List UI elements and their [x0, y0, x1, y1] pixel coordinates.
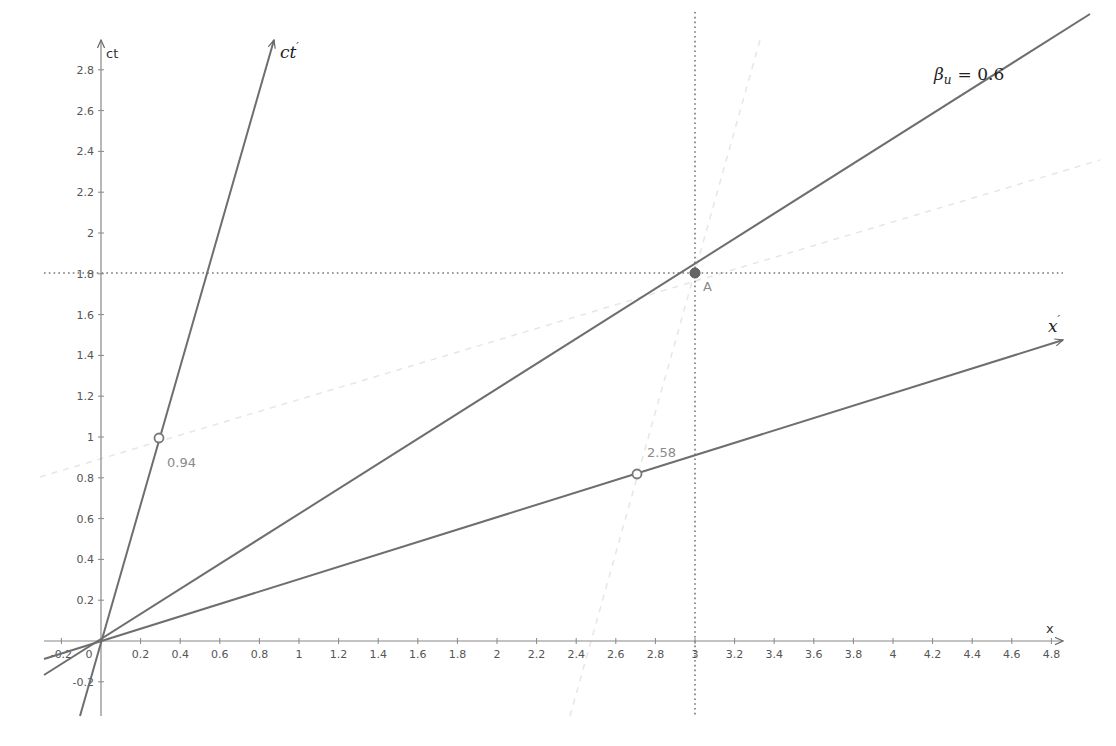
x-tick-label: 0.2 [132, 648, 150, 661]
spacetime-diagram: -0.200.20.40.60.811.21.41.61.822.22.42.6… [0, 0, 1116, 746]
ct-tick-label: 2.8 [77, 64, 95, 77]
x-tick-label: 1.2 [330, 648, 348, 661]
x-tick-label: 3.2 [726, 648, 744, 661]
worldline-beta-0.6: βu= 0.6 [44, 14, 1090, 675]
x-tick-label: 1.6 [409, 648, 427, 661]
x-tick-label: 1.4 [369, 648, 387, 661]
ct-prime-axis: ct′ [80, 40, 299, 716]
x-tick-label: 0.4 [171, 648, 189, 661]
ct-tick-label: 1.2 [77, 390, 95, 403]
x-tick-label: 4.8 [1043, 648, 1061, 661]
x-tick-label: 3.4 [765, 648, 783, 661]
point-a[interactable]: A [690, 268, 712, 294]
ct-tick-label: 0.2 [77, 594, 95, 607]
x-tick-label: 0 [86, 648, 93, 661]
ct-prime-unit-marker[interactable]: 0.94 [155, 434, 196, 471]
ct-tick-label: 2.2 [77, 186, 95, 199]
x-tick-label: 1 [296, 648, 303, 661]
x-axis-label: x [1046, 621, 1054, 636]
ct-tick-label: 2 [87, 227, 94, 240]
x-tick-label: 2 [494, 648, 501, 661]
ct-axis: -0.20.20.40.60.811.21.41.61.822.22.42.62… [73, 40, 119, 716]
ct-tick-label: 0.4 [77, 553, 95, 566]
point-a-label: A [703, 279, 712, 294]
x-axis: -0.200.20.40.60.811.21.41.61.822.22.42.6… [44, 621, 1063, 661]
faint-line-parallel-x-prime [40, 160, 1100, 477]
ct-tick-label: 1.8 [77, 268, 95, 281]
x-tick-label: 2.4 [567, 648, 585, 661]
ct-tick-label: 0.8 [77, 472, 95, 485]
x-tick-label: 4.6 [1003, 648, 1021, 661]
ct-axis-label: ct [106, 46, 118, 61]
x-prime-marker-label: 2.58 [647, 445, 676, 460]
ct-tick-label: 0.6 [77, 513, 95, 526]
x-tick-label: 1.8 [449, 648, 467, 661]
x-prime-label: x′ [1048, 313, 1061, 336]
x-tick-label: 4.4 [963, 648, 981, 661]
ct-tick-label: 2.4 [77, 145, 95, 158]
x-tick-label: 2.6 [607, 648, 625, 661]
x-tick-label: 4 [890, 648, 897, 661]
x-tick-label: 0.6 [211, 648, 229, 661]
x-tick-label: 0.8 [251, 648, 269, 661]
x-prime-axis: x′ [44, 313, 1063, 659]
x-tick-label: 3.6 [805, 648, 823, 661]
ct-prime-label: ct′ [280, 40, 299, 62]
x-tick-label: 2.8 [647, 648, 665, 661]
x-tick-label: 3.8 [845, 648, 863, 661]
faint-line-parallel-ct-prime [570, 40, 760, 716]
ct-tick-label: 1.6 [77, 309, 95, 322]
x-tick-label: 2.2 [528, 648, 546, 661]
x-prime-marker[interactable]: 2.58 [633, 445, 676, 479]
ct-prime-marker-label: 0.94 [167, 455, 196, 470]
ct-tick-label: 2.6 [77, 105, 95, 118]
ct-tick-label: 1 [87, 431, 94, 444]
ct-tick-label: 1.4 [77, 349, 95, 362]
x-tick-label: 3 [692, 648, 699, 661]
worldline-label: βu= 0.6 [933, 64, 1004, 87]
x-tick-label: 4.2 [924, 648, 942, 661]
